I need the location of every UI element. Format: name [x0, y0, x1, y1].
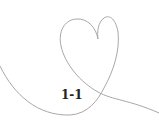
heart-line-icon — [0, 0, 159, 137]
page-label: 1-1 — [61, 88, 83, 102]
